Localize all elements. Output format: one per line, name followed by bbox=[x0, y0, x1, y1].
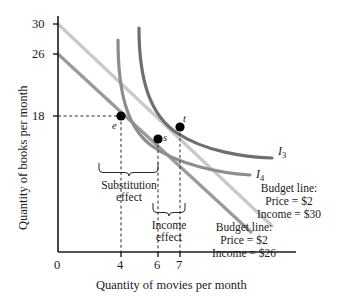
x-tick-label-7: 7 bbox=[176, 259, 182, 272]
budget-note-26-line2: Price = $2 bbox=[196, 234, 292, 247]
substitution-effect-line2: effect bbox=[88, 191, 170, 203]
data-point-s bbox=[153, 134, 162, 143]
indifference-curve-chart: Quantity of books per month Quantity of … bbox=[0, 0, 338, 299]
budget-note-30-line2: Price = $2 bbox=[241, 195, 337, 208]
x-axis-title: Quantity of movies per month bbox=[96, 279, 247, 292]
curve-label-i4: I4 bbox=[256, 168, 264, 183]
budget-note-income-30: Budget line: Price = $2 Income = $30 bbox=[241, 182, 337, 221]
curve-label-i3-sub: 3 bbox=[282, 150, 286, 160]
y-tick-label-30: 30 bbox=[32, 18, 45, 31]
point-label-t: t bbox=[183, 114, 186, 125]
x-tick-label-4: 4 bbox=[117, 259, 123, 272]
x-tick-label-0: 0 bbox=[54, 259, 60, 272]
y-tick-label-18: 18 bbox=[32, 110, 45, 123]
budget-note-30-line3: Income = $30 bbox=[241, 208, 337, 221]
budget-note-income-26: Budget line: Price = $2 Income = $26 bbox=[196, 221, 292, 260]
y-axis-title: Quantity of books per month bbox=[17, 86, 30, 230]
substitution-effect-line1: Substitution bbox=[88, 179, 170, 191]
income-effect-line2: effect bbox=[139, 231, 199, 243]
point-label-s: s bbox=[163, 133, 167, 144]
y-tick-label-26: 26 bbox=[32, 48, 45, 61]
budget-note-26-line1: Budget line: bbox=[196, 221, 292, 234]
budget-note-30-line1: Budget line: bbox=[241, 182, 337, 195]
income-effect-label: Income effect bbox=[139, 219, 199, 244]
data-point-e bbox=[116, 111, 125, 120]
curve-label-i3: I3 bbox=[278, 145, 286, 160]
substitution-effect-brace bbox=[99, 163, 158, 176]
point-label-e: e bbox=[112, 121, 117, 132]
income-effect-line1: Income bbox=[139, 219, 199, 231]
budget-line-income-26 bbox=[58, 54, 251, 232]
budget-note-26-line3: Income = $26 bbox=[196, 247, 292, 260]
x-tick-label-6: 6 bbox=[154, 259, 160, 272]
substitution-effect-label: Substitution effect bbox=[88, 179, 170, 204]
